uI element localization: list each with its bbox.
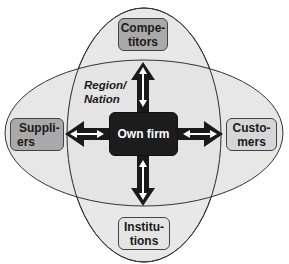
node-suppliers: Suppli- ers xyxy=(10,118,64,151)
suppliers-line2: ers xyxy=(11,135,35,149)
competitors-line2: titors xyxy=(128,35,158,49)
node-customers: Custo- mers xyxy=(226,118,277,151)
competitors-line1: Compe- xyxy=(121,21,166,35)
region-nation-label: Region/ Nation xyxy=(84,78,126,106)
suppliers-line1: Suppli- xyxy=(11,121,60,135)
node-institutions: Institu- tions xyxy=(118,217,170,250)
institutions-line2: tions xyxy=(130,234,159,248)
node-own-firm: Own firm xyxy=(109,112,178,156)
customers-line1: Custo- xyxy=(233,121,271,135)
institutions-line1: Institu- xyxy=(124,220,164,234)
node-competitors: Compe- titors xyxy=(118,18,168,51)
own-firm-label: Own firm xyxy=(117,127,169,141)
customers-line2: mers xyxy=(237,135,266,149)
region-label-line1: Region/ xyxy=(84,78,126,92)
region-label-line2: Nation xyxy=(84,92,126,106)
